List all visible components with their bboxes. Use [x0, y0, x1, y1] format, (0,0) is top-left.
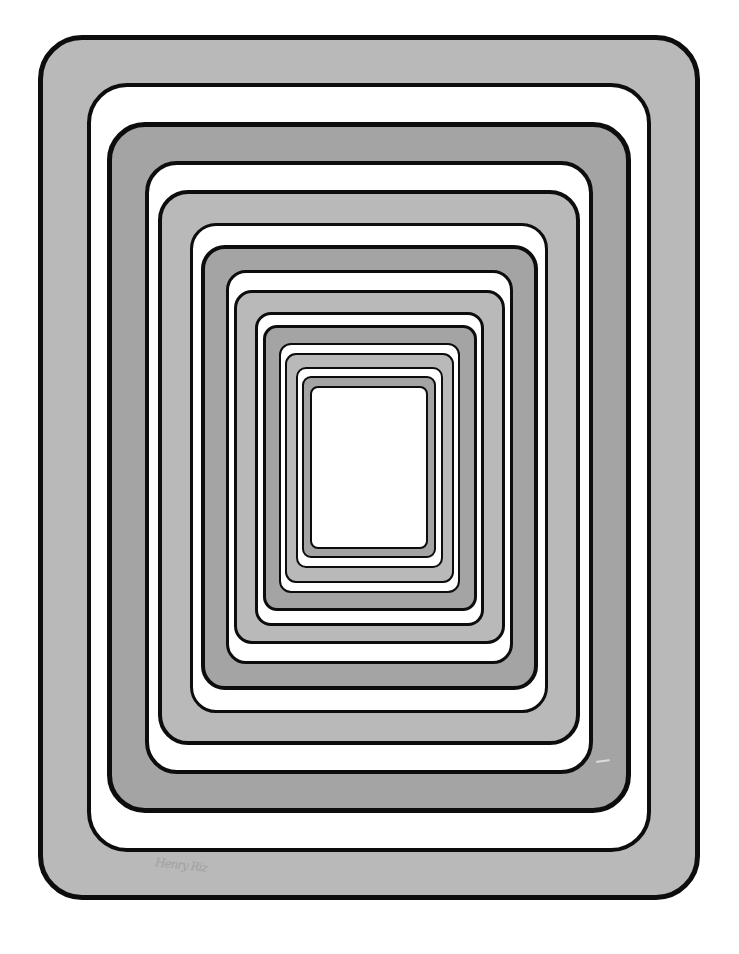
ring-16: [310, 386, 428, 549]
nested-rectangles-artwork: [0, 0, 739, 954]
